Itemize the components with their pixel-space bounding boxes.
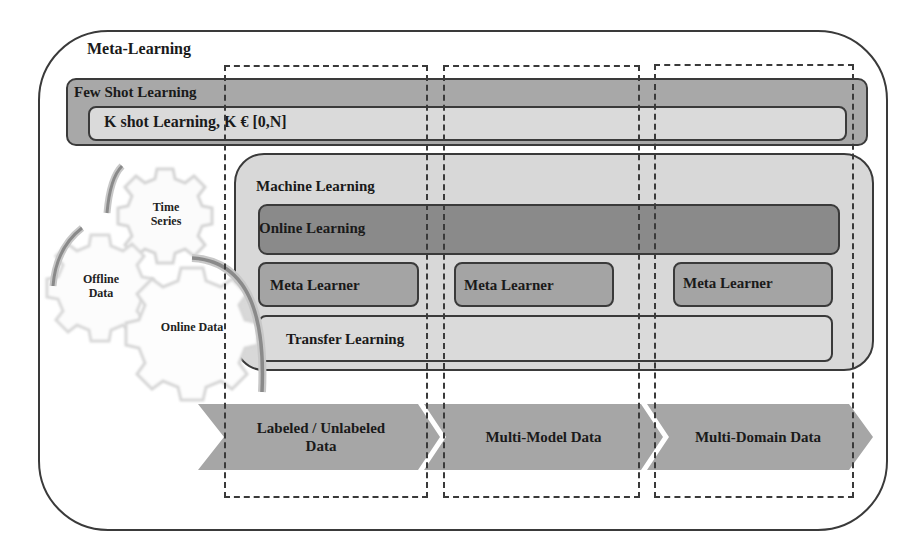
dashed-column-2 — [443, 65, 640, 498]
dashed-column-1 — [224, 65, 428, 498]
dashed-column-3 — [654, 64, 854, 498]
